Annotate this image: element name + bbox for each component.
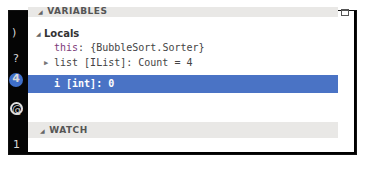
watch-section-header[interactable]: ◢WATCH	[28, 122, 338, 138]
variable-row-list[interactable]: ▶ list [IList]: Count = 4	[28, 55, 338, 71]
variable-name: list [IList]	[54, 57, 126, 68]
at-circle-icon[interactable]: @	[10, 102, 23, 115]
paren-icon[interactable]: )	[12, 27, 16, 38]
collapse-triangle-icon: ◢	[40, 127, 45, 134]
expand-arrow-icon[interactable]: ▶	[44, 55, 48, 71]
help-icon[interactable]: ?	[13, 53, 19, 64]
variable-row-i-selected[interactable]: i [int]: 0	[28, 75, 338, 93]
debug-window-frame: ) ? 4 @ 1 ◢VARIABLES ◢ Locals this: {Bub…	[8, 10, 357, 155]
one-icon[interactable]: 1	[13, 139, 20, 150]
debug-panel: ◢VARIABLES ◢ Locals this: {BubbleSort.So…	[28, 11, 354, 152]
variable-value: : Count = 4	[126, 57, 192, 68]
variable-name: this	[54, 42, 78, 53]
activity-bar: ) ? 4 @ 1	[9, 11, 28, 154]
variables-section-header[interactable]: ◢VARIABLES	[28, 7, 338, 17]
watch-header-label: WATCH	[49, 125, 88, 135]
variable-name: i [int]	[54, 78, 96, 89]
collapse-all-icon[interactable]	[341, 9, 349, 16]
variables-header-label: VARIABLES	[47, 7, 107, 16]
variable-row-this[interactable]: this: {BubbleSort.Sorter}	[28, 40, 338, 56]
variable-value: : {BubbleSort.Sorter}	[78, 42, 204, 53]
variable-value: : 0	[96, 78, 114, 89]
badge-icon[interactable]: 4	[9, 73, 23, 87]
collapse-triangle-icon: ◢	[38, 8, 43, 15]
